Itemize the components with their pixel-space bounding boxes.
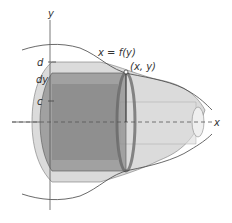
shell-method-diagram: y x x = f(y) (x, y) d dy c <box>0 0 232 223</box>
point-marker <box>124 70 128 74</box>
dy-label: dy <box>36 74 49 85</box>
x-axis-label: x <box>213 117 220 128</box>
d-label: d <box>37 57 44 68</box>
point-label: (x, y) <box>130 61 156 72</box>
curve-label: x = f(y) <box>97 47 136 58</box>
y-axis-label: y <box>47 8 55 19</box>
c-label: c <box>37 96 43 107</box>
